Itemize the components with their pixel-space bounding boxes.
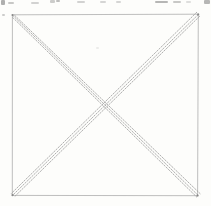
text-fragment <box>173 1 181 3</box>
corner-dot <box>197 13 199 15</box>
text-fragment <box>56 0 60 2</box>
text-fragment <box>186 1 191 3</box>
diagonal-tl-br <box>12 15 200 197</box>
text-fragment <box>2 14 5 16</box>
text-fragment <box>155 1 168 3</box>
text-fragment <box>116 1 121 3</box>
text-fragment <box>8 2 14 4</box>
text-fragment <box>1 0 5 5</box>
diagonal-stroke <box>11 12 197 194</box>
text-fragment <box>96 47 99 49</box>
corner-dot <box>197 195 199 197</box>
text-fragment <box>204 0 210 4</box>
scanned-sketch-page <box>0 0 211 206</box>
text-fragment <box>50 0 55 3</box>
sketch-svg <box>0 0 211 206</box>
diagonal-stroke <box>13 15 199 196</box>
corner-dot <box>11 194 13 196</box>
text-fragment <box>77 1 85 3</box>
text-fragment <box>100 1 106 3</box>
diagonal-stroke <box>14 15 200 194</box>
corner-dot <box>11 14 13 16</box>
text-fragment <box>31 2 39 4</box>
diagonal-stroke <box>12 17 197 197</box>
